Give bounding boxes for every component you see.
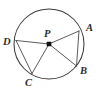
- center-point-dot: [47, 42, 52, 47]
- diagram-canvas: P A B C D: [0, 0, 100, 89]
- point-label-p: P: [44, 28, 51, 39]
- point-label-b: B: [79, 65, 87, 76]
- point-label-d: D: [2, 36, 11, 47]
- point-label-c: C: [25, 77, 33, 88]
- point-label-a: A: [85, 22, 93, 33]
- circle-diagram-figure: P A B C D: [0, 0, 100, 89]
